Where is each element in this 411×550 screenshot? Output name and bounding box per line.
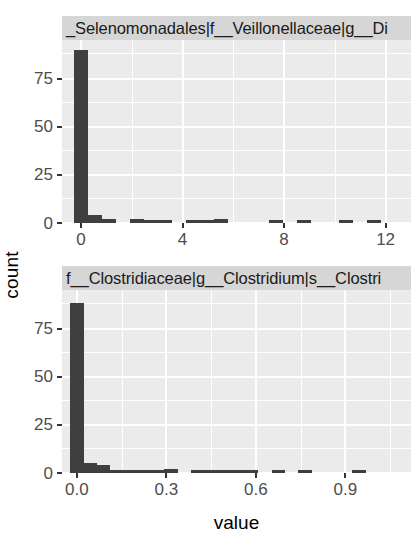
gridline-vertical-minor <box>132 40 133 223</box>
x-axis-tick: 0.9 <box>320 473 370 498</box>
gridline-vertical-minor <box>122 290 123 473</box>
x-axis-tick-label: 0 <box>76 231 85 248</box>
x-axis-tick-mark <box>182 223 184 228</box>
y-axis-tick-label: 25 <box>34 166 57 183</box>
x-axis-tick-mark <box>344 473 346 478</box>
facet-strip-bottom: f__Clostridiaceae|g__Clostridium|s__Clos… <box>62 266 411 290</box>
facet-strip-top: _Selenomonadales|f__Veillonellaceae|g__D… <box>62 16 411 40</box>
x-axis-tick-label: 4 <box>178 231 187 248</box>
x-axis-tick: 0.6 <box>231 473 281 498</box>
y-axis-tick-label: 75 <box>34 70 57 87</box>
gridline-vertical <box>165 290 167 473</box>
x-axis-tick: 0 <box>56 223 106 248</box>
facet-strip-label-bottom: f__Clostridiaceae|g__Clostridium|s__Clos… <box>66 269 381 288</box>
x-axis-tick-mark <box>385 223 387 228</box>
gridline-horizontal-minor <box>62 400 411 401</box>
x-axis-tick: 8 <box>259 223 309 248</box>
gridline-horizontal-minor <box>62 150 411 151</box>
gridline-horizontal <box>62 424 411 426</box>
histogram-figure: count 0255075 0255075 _Selenomonadales|f… <box>0 0 411 550</box>
y-axis-tick-label: 25 <box>34 416 57 433</box>
x-axis-tick: 0.0 <box>52 473 102 498</box>
gridline-vertical-minor <box>390 290 391 473</box>
x-axis-title: value <box>62 512 411 542</box>
gridline-vertical-minor <box>211 290 212 473</box>
y-axis-tick: 25 <box>34 168 62 182</box>
gridline-vertical <box>385 40 387 223</box>
x-axis-top-panel: 04812 <box>62 223 411 253</box>
y-axis-tick-label: 50 <box>34 118 57 135</box>
y-axis-top-panel: 0255075 <box>0 16 62 223</box>
x-axis-tick: 4 <box>158 223 208 248</box>
gridline-vertical <box>344 290 346 473</box>
x-axis-tick-label: 0.0 <box>65 481 89 498</box>
plot-area-bottom <box>62 290 411 473</box>
y-axis-tick: 50 <box>34 120 62 134</box>
x-axis-tick: 0.3 <box>141 473 191 498</box>
x-axis-tick-mark <box>80 223 82 228</box>
y-axis-tick: 75 <box>34 322 62 336</box>
x-axis-tick-label: 0.9 <box>334 481 358 498</box>
gridline-horizontal-minor <box>62 198 411 199</box>
y-axis-tick: 75 <box>34 72 62 86</box>
histogram-bar <box>84 463 97 473</box>
gridline-horizontal <box>62 78 411 80</box>
x-axis-tick-mark <box>165 473 167 478</box>
y-axis-tick: 25 <box>34 418 62 432</box>
gridline-horizontal-minor <box>62 352 411 353</box>
histogram-bar <box>70 303 83 473</box>
x-axis-tick: 12 <box>361 223 411 248</box>
histogram-bar <box>97 465 110 473</box>
gridline-vertical <box>283 40 285 223</box>
histogram-bar <box>74 50 88 223</box>
plot-area-top <box>62 40 411 223</box>
y-axis-bottom-panel: 0255075 <box>0 266 62 473</box>
x-axis-tick-mark <box>283 223 285 228</box>
histogram-bar <box>88 215 102 223</box>
x-axis-tick-label: 12 <box>376 231 395 248</box>
x-axis-tick-mark <box>255 473 257 478</box>
gridline-horizontal <box>62 174 411 176</box>
facet-panel-selenomonadales: _Selenomonadales|f__Veillonellaceae|g__D… <box>62 16 411 223</box>
gridline-vertical-minor <box>335 40 336 223</box>
gridline-vertical-minor <box>301 290 302 473</box>
gridline-horizontal-minor <box>62 448 411 449</box>
x-axis-title-text: value <box>214 512 259 533</box>
facet-panel-clostridiaceae: f__Clostridiaceae|g__Clostridium|s__Clos… <box>62 266 411 473</box>
gridline-horizontal <box>62 376 411 378</box>
y-axis-tick: 50 <box>34 370 62 384</box>
gridline-horizontal-minor <box>62 53 411 54</box>
gridline-horizontal-minor <box>62 303 411 304</box>
facet-strip-label-top: _Selenomonadales|f__Veillonellaceae|g__D… <box>66 19 388 38</box>
x-axis-tick-mark <box>76 473 78 478</box>
x-axis-tick-label: 8 <box>279 231 288 248</box>
x-axis-bottom-panel: 0.00.30.60.9 <box>62 473 411 503</box>
gridline-vertical <box>255 290 257 473</box>
x-axis-tick-label: 0.6 <box>244 481 268 498</box>
y-axis-tick-label: 50 <box>34 368 57 385</box>
gridline-vertical-minor <box>233 40 234 223</box>
y-axis-tick-label: 0 <box>44 215 57 232</box>
gridline-horizontal <box>62 126 411 128</box>
gridline-horizontal-minor <box>62 102 411 103</box>
y-axis-tick-label: 75 <box>34 320 57 337</box>
gridline-horizontal <box>62 328 411 330</box>
x-axis-tick-label: 0.3 <box>155 481 179 498</box>
gridline-vertical <box>182 40 184 223</box>
